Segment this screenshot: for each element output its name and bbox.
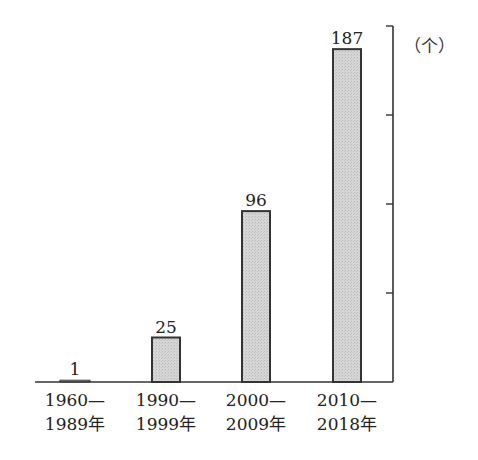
x-tick-label: 2018年 bbox=[317, 414, 377, 434]
data-labels: 12596187 bbox=[70, 28, 364, 379]
x-axis-labels: 1960—1989年1990—1999年2000—2009年2010—2018年 bbox=[45, 390, 377, 434]
bar-chart: 12596187 1960—1989年1990—1999年2000—2009年2… bbox=[0, 0, 478, 460]
x-tick-label: 1960— bbox=[45, 390, 105, 410]
value-label: 96 bbox=[245, 190, 267, 210]
value-label: 25 bbox=[155, 317, 177, 337]
unit-label: （个） bbox=[404, 36, 455, 56]
value-label: 187 bbox=[331, 28, 363, 48]
x-tick-label: 1989年 bbox=[45, 414, 105, 434]
bar-3 bbox=[242, 211, 270, 382]
x-tick-label: 2009年 bbox=[226, 414, 286, 434]
y-axis bbox=[386, 26, 393, 382]
x-tick-label: 2000— bbox=[226, 390, 286, 410]
bar-4 bbox=[333, 49, 361, 382]
x-tick-label: 1990— bbox=[136, 390, 196, 410]
value-label: 1 bbox=[70, 359, 81, 379]
x-tick-label: 2010— bbox=[317, 390, 377, 410]
bar-2 bbox=[152, 338, 180, 383]
x-tick-label: 1999年 bbox=[136, 414, 196, 434]
bars-group bbox=[60, 49, 361, 382]
